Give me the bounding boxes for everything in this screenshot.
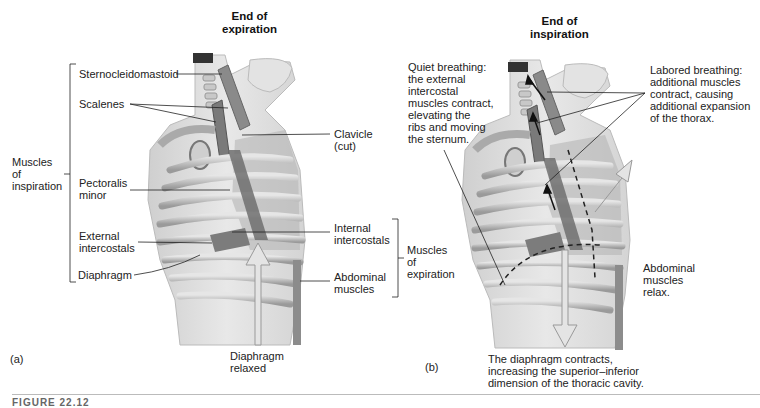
group-label-expiration: Muscles of expiration: [407, 244, 455, 280]
label-external-intercostals: External intercostals: [79, 230, 135, 254]
label-quiet-breathing: Quiet breathing: the external intercosta…: [408, 61, 494, 145]
figure-caption: FIGURE 22.12: [12, 397, 90, 408]
panel-b-label: (b): [425, 361, 438, 373]
label-diaphragm-contracts: The diaphragm contracts, increasing the …: [488, 353, 644, 389]
label-labored-breathing: Labored breathing: additional muscles co…: [650, 64, 750, 124]
label-diaphragm: Diaphragm: [78, 269, 132, 281]
caption-divider: [12, 394, 760, 395]
label-scalenes: Scalenes: [79, 98, 124, 110]
panel-a-label: (a): [10, 353, 23, 365]
label-clavicle: Clavicle (cut): [334, 128, 373, 152]
label-pectoralis-minor: Pectoralis minor: [79, 177, 127, 201]
group-label-inspiration: Muscles of inspiration: [12, 156, 62, 192]
label-abdominal-relax: Abdominal muscles relax.: [643, 262, 695, 298]
panel-a-title: End of expiration: [222, 10, 277, 36]
label-diaphragm-relaxed: Diaphragm relaxed: [230, 350, 284, 374]
label-abdominal-muscles: Abdominal muscles: [334, 271, 386, 295]
label-sternocleidomastoid: Sternocleidomastoid: [79, 68, 179, 80]
panel-b-title: End of inspiration: [530, 15, 589, 41]
torso-a-illustration: [148, 53, 305, 345]
label-internal-intercostals: Internal intercostals: [334, 222, 390, 246]
